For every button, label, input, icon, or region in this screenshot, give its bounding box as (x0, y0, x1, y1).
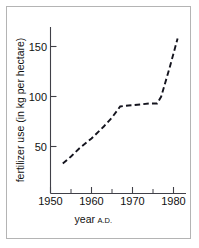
chart-figure: 150 100 50 1950 1960 1970 1980 year A.D.… (0, 0, 199, 248)
x-axis-minor-ticks (71, 189, 153, 194)
x-axis-title-suffix: A.D. (98, 216, 113, 225)
data-series-fertilizer-use (63, 39, 178, 164)
y-axis-title: fertilizer use (in kg per hectare) (14, 38, 26, 183)
line-chart: 150 100 50 1950 1960 1970 1980 year A.D.… (0, 0, 199, 248)
y-tick-label-50: 50 (35, 141, 47, 153)
x-axis-title: year (75, 213, 96, 225)
x-tick-label-1950: 1950 (38, 195, 62, 207)
x-tick-label-1960: 1960 (79, 195, 103, 207)
x-tick-label-1980: 1980 (161, 195, 185, 207)
y-axis-ticks (51, 47, 57, 147)
y-tick-label-100: 100 (29, 91, 47, 103)
x-tick-label-1970: 1970 (120, 195, 144, 207)
y-tick-label-150: 150 (29, 41, 47, 53)
